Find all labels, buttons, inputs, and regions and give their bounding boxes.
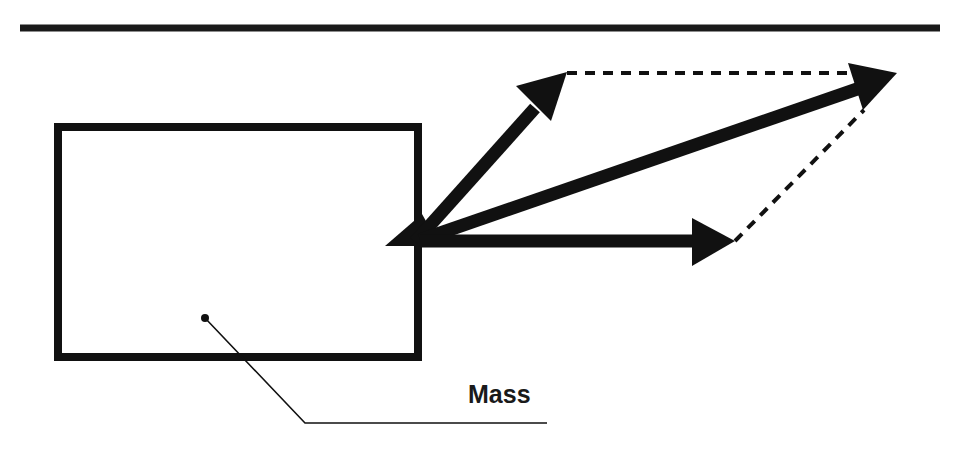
mass-box	[58, 127, 418, 357]
mass-label: Mass	[468, 379, 531, 409]
